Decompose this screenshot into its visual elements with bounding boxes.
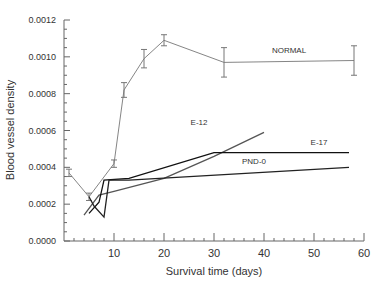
y-tick-label: 0.0002 <box>28 199 56 209</box>
series-line <box>89 167 349 217</box>
blood-vessel-density-chart: 0.00000.00020.00040.00060.00080.00100.00… <box>0 0 384 282</box>
x-tick-label: 50 <box>308 247 320 259</box>
y-tick-label: 0.0000 <box>28 236 56 246</box>
y-tick-label: 0.0010 <box>28 52 56 62</box>
x-axis-label: Survival time (days) <box>166 265 263 277</box>
series-e-17 <box>89 153 349 214</box>
series-label: NORMAL <box>272 46 307 55</box>
x-tick-label: 20 <box>158 247 170 259</box>
x-tick-label: 60 <box>358 247 370 259</box>
axes: 0.00000.00020.00040.00060.00080.00100.00… <box>28 15 370 259</box>
chart-canvas: 0.00000.00020.00040.00060.00080.00100.00… <box>0 0 384 282</box>
y-tick-label: 0.0006 <box>28 126 56 136</box>
series-label: E-17 <box>311 138 328 147</box>
series-label: E-12 <box>191 118 208 127</box>
y-tick-label: 0.0004 <box>28 162 56 172</box>
series-line <box>89 153 349 214</box>
x-tick-label: 30 <box>208 247 220 259</box>
series-label: PND-0 <box>242 157 267 166</box>
x-tick-label: 40 <box>258 247 270 259</box>
series-pnd-0 <box>89 167 349 217</box>
x-tick-label: 10 <box>108 247 120 259</box>
series-line <box>69 40 354 197</box>
y-tick-label: 0.0012 <box>28 15 56 25</box>
plot-area: NORMALE-12E-17PND-0 <box>66 35 357 217</box>
y-axis-label: Blood vessel density <box>4 79 16 180</box>
y-tick-label: 0.0008 <box>28 89 56 99</box>
